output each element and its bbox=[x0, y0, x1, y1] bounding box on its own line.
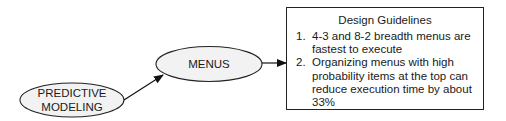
guideline-text: 4-3 and 8-2 breadth menus are fastest to… bbox=[312, 30, 483, 56]
predictive-modeling-label: PREDICTIVE MODELING bbox=[22, 86, 122, 114]
guidelines-title: Design Guidelines bbox=[287, 13, 483, 27]
predictive-modeling-line2: MODELING bbox=[22, 100, 122, 114]
menus-label: MENUS bbox=[156, 57, 262, 71]
guideline-item: 2. Organizing menus with high probabilit… bbox=[287, 56, 483, 109]
design-guidelines-box: Design Guidelines 1. 4-3 and 8-2 breadth… bbox=[286, 7, 484, 110]
edge-predictive-to-menus bbox=[124, 75, 163, 100]
guideline-item: 1. 4-3 and 8-2 breadth menus are fastest… bbox=[287, 30, 483, 56]
guideline-number: 2. bbox=[287, 56, 312, 109]
guideline-number: 1. bbox=[287, 30, 312, 56]
predictive-modeling-line1: PREDICTIVE bbox=[22, 86, 122, 100]
guidelines-list: 1. 4-3 and 8-2 breadth menus are fastest… bbox=[287, 30, 483, 109]
guideline-text: Organizing menus with high probability i… bbox=[312, 56, 483, 109]
